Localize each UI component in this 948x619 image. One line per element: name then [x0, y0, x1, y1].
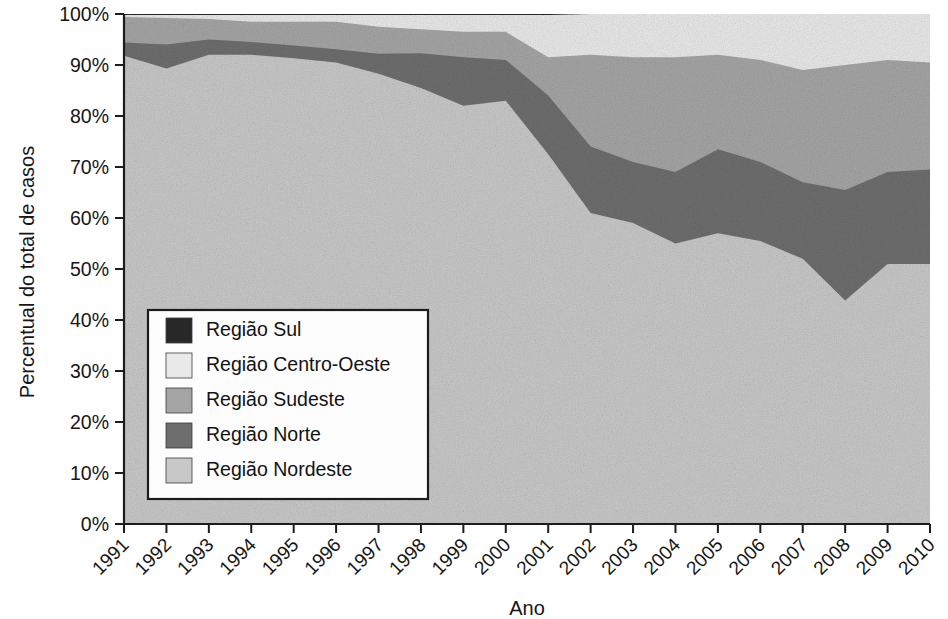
legend-swatch-3: [166, 423, 192, 448]
y-tick-label: 50%: [70, 258, 109, 280]
legend-swatch-4: [166, 458, 192, 483]
legend-label-0: Região Sul: [206, 318, 301, 340]
legend-swatch-1: [166, 353, 192, 378]
chart-legend: Região SulRegião Centro-OesteRegião Sude…: [148, 310, 428, 499]
legend-label-2: Região Sudeste: [206, 388, 345, 410]
stacked-area-chart: 0%10%20%30%40%50%60%70%80%90%100% 199119…: [0, 0, 948, 619]
legend-label-4: Região Nordeste: [206, 458, 352, 480]
legend-label-1: Região Centro-Oeste: [206, 353, 390, 375]
y-tick-label: 60%: [70, 207, 109, 229]
y-tick-label: 40%: [70, 309, 109, 331]
x-axis-title: Ano: [509, 597, 545, 619]
y-tick-label: 30%: [70, 360, 109, 382]
chart-figure: 0%10%20%30%40%50%60%70%80%90%100% 199119…: [0, 0, 948, 619]
y-tick-label: 100%: [59, 3, 109, 25]
legend-label-3: Região Norte: [206, 423, 321, 445]
y-tick-label: 20%: [70, 411, 109, 433]
y-tick-label: 90%: [70, 54, 109, 76]
legend-swatch-0: [166, 318, 192, 343]
y-tick-label: 0%: [81, 513, 109, 535]
y-tick-label: 70%: [70, 156, 109, 178]
y-tick-label: 10%: [70, 462, 109, 484]
y-axis-title: Percentual do total de casos: [16, 146, 38, 398]
y-tick-label: 80%: [70, 105, 109, 127]
legend-swatch-2: [166, 388, 192, 413]
